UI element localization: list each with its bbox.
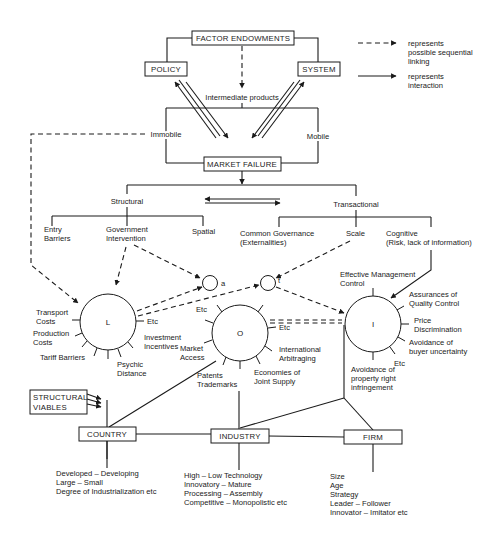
market-failure-branches: Structural Transactional Entry Barriers … [44, 171, 472, 247]
svg-text:POLICY: POLICY [151, 65, 181, 74]
industry-attr: High – Low Technology [184, 471, 263, 480]
svg-text:Arbitraging: Arbitraging [279, 354, 316, 363]
industry-attr: Competitive – Monopolistic etc [184, 498, 287, 507]
psychic-distance-label: Psychic [117, 360, 143, 369]
svg-text:L: L [106, 318, 111, 327]
svg-text:Discrimination: Discrimination [414, 325, 462, 334]
legend-dashed-text: represents [408, 39, 444, 48]
svg-text:Control: Control [340, 279, 365, 288]
svg-text:Trademarks: Trademarks [197, 380, 237, 389]
svg-text:INDUSTRY: INDUSTRY [219, 432, 261, 441]
svg-text:interaction: interaction [408, 81, 443, 90]
property-right-label: Avoidance of [351, 365, 396, 374]
svg-text:(Risk, lack of information): (Risk, lack of information) [386, 238, 472, 247]
structural-label: Structural [111, 197, 144, 206]
svg-text:Incentives: Incentives [144, 342, 178, 351]
i-etc-label: Etc [394, 359, 405, 368]
effective-management-label: Effective Management [340, 270, 416, 279]
common-governance-label: Common Governance [240, 229, 314, 238]
o-etc-top-label: Etc [196, 305, 207, 314]
tariff-barriers-label: Tariff Barriers [40, 353, 85, 362]
o-etc-right-label: Etc [279, 323, 290, 332]
svg-text:COUNTRY: COUNTRY [87, 430, 127, 439]
entry-barriers-label: Entry [44, 225, 62, 234]
structural-viables: STRUCTURAL VIABLES [30, 390, 101, 414]
legend: represents possible sequential linking r… [358, 39, 473, 90]
eclectic-paradigm-diagram: represents possible sequential linking r… [0, 0, 500, 540]
scale-label: Scale [346, 229, 365, 238]
svg-text:SYSTEM: SYSTEM [302, 65, 335, 74]
svg-text:infringement: infringement [351, 383, 394, 392]
svg-text:a: a [221, 279, 226, 288]
svg-text:MARKET FAILURE: MARKET FAILURE [207, 160, 277, 169]
legend-solid-text: represents [408, 72, 444, 81]
top-section: FACTOR ENDOWMENTS POLICY SYSTEM Intermed… [145, 31, 340, 171]
firm-attr: Age [330, 481, 344, 490]
transport-costs-label: Transport [36, 308, 69, 317]
svg-text:Intervention: Intervention [106, 234, 146, 243]
international-arbitraging-label: International [279, 345, 321, 354]
svg-text:linking: linking [408, 57, 430, 66]
svg-text:Joint Supply: Joint Supply [254, 377, 296, 386]
svg-text:FIRM: FIRM [363, 433, 383, 442]
svg-text:Quality Control: Quality Control [409, 299, 460, 308]
firm-attr: Size [330, 472, 345, 481]
svg-text:Access: Access [180, 353, 205, 362]
buyer-uncertainty-label: Avoidance of [409, 338, 454, 347]
l-etc-label: Etc [147, 317, 158, 326]
ownership-circle-O: O Etc Etc Market Access Patents Trademar… [180, 305, 321, 389]
location-circle-L: L Transport Costs Production Costs Tarif… [33, 294, 182, 378]
patents-trademarks-label: Patents [197, 371, 223, 380]
svg-text:Costs: Costs [33, 338, 53, 347]
investment-incentives-label: Investment [144, 333, 182, 342]
svg-text:possible sequential: possible sequential [408, 48, 473, 57]
internalization-circle-I: I Effective Management Control Assurance… [340, 270, 467, 392]
firm-attr: Strategy [330, 490, 358, 499]
small-circles: a t [203, 276, 282, 291]
svg-text:buyer uncertainty: buyer uncertainty [409, 347, 467, 356]
svg-text:STRUCTURAL: STRUCTURAL [33, 393, 88, 402]
industry-attr: Processing – Assembly [184, 489, 263, 498]
transactional-label: Transactional [333, 200, 379, 209]
country-attr: Large – Small [56, 478, 103, 487]
svg-text:Barriers: Barriers [44, 234, 71, 243]
market-access-label: Market [180, 344, 204, 353]
price-discrimination-label: Price [414, 316, 431, 325]
svg-text:O: O [237, 329, 243, 338]
circle-t [261, 276, 276, 291]
government-intervention-label: Government [106, 225, 149, 234]
svg-text:VIABLES: VIABLES [33, 403, 67, 412]
circle-a [203, 276, 218, 291]
quality-control-label: Assurances of [409, 290, 458, 299]
firm-attr: Leader – Follower [330, 499, 391, 508]
cognitive-label: Cognitive [386, 229, 418, 238]
spatial-label: Spatial [192, 227, 216, 236]
svg-text:I: I [372, 320, 374, 329]
mobile-label: Mobile [307, 132, 329, 141]
svg-text:Costs: Costs [36, 317, 56, 326]
country-attr: Developed – Developing [56, 469, 139, 478]
immobile-label: Immobile [151, 130, 182, 139]
industry-attr: Innovatory – Mature [184, 480, 252, 489]
economies-joint-supply-label: Economies of [254, 368, 301, 377]
firm-attr: Innovator – Imitator etc [330, 508, 408, 517]
svg-text:Distance: Distance [117, 369, 147, 378]
svg-text:(Externalities): (Externalities) [240, 238, 287, 247]
intermediate-products-label: Intermediate products [205, 93, 279, 102]
country-attr: Degree of Industrialization etc [56, 487, 157, 496]
svg-text:property right: property right [351, 374, 397, 383]
production-costs-label: Production [33, 329, 69, 338]
svg-text:FACTOR ENDOWMENTS: FACTOR ENDOWMENTS [196, 34, 290, 43]
